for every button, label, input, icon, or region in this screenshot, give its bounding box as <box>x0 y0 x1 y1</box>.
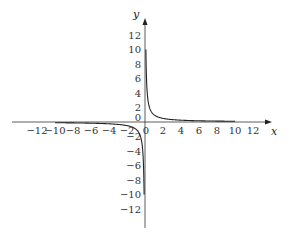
x-tick-labels: −12−10−8−6−4−2024681012 <box>26 125 259 136</box>
y-tick-label: −12 <box>120 204 141 215</box>
x-tick-label: −8 <box>66 125 81 136</box>
curve-branch-positive <box>146 50 235 122</box>
function-plot: x y −12−10−8−6−4−2024681012 −12−10−8−6−4… <box>0 0 289 234</box>
x-tick-label: 4 <box>178 125 184 136</box>
x-axis-label: x <box>271 125 278 138</box>
y-axis-arrow-icon <box>143 18 148 25</box>
y-tick-label: −4 <box>126 146 141 157</box>
x-tick-label: −6 <box>84 125 99 136</box>
x-tick-label: 2 <box>160 125 166 136</box>
y-tick-label: 6 <box>135 73 141 84</box>
axes: x y <box>12 8 278 228</box>
y-tick-label: 0 <box>135 112 141 123</box>
y-axis-label: y <box>132 8 140 21</box>
x-tick-label: 12 <box>247 125 260 136</box>
y-tick-label: −6 <box>126 160 141 171</box>
y-tick-label: 2 <box>135 102 141 113</box>
y-tick-label: −8 <box>126 175 141 186</box>
x-tick-label: −4 <box>102 125 117 136</box>
y-tick-label: 8 <box>135 59 141 70</box>
y-tick-label: −10 <box>120 189 141 200</box>
y-tick-label: 12 <box>128 30 141 41</box>
x-tick-label: 6 <box>196 125 202 136</box>
x-tick-label: 10 <box>229 125 242 136</box>
x-axis-arrow-icon <box>265 120 272 125</box>
y-tick-label: 4 <box>135 88 141 99</box>
x-tick-label: 0 <box>143 125 149 136</box>
x-tick-label: −10 <box>44 125 65 136</box>
x-tick-label: 8 <box>214 125 220 136</box>
y-tick-label: 10 <box>128 44 141 55</box>
